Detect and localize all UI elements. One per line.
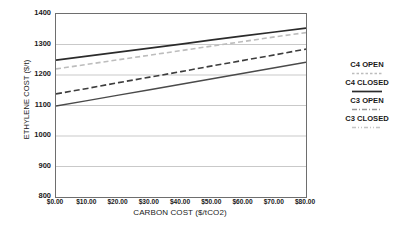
legend-entry[interactable]: C4 OPEN xyxy=(330,60,404,77)
y-axis-tick-label: 1100 xyxy=(25,101,51,109)
y-axis-tick-label: 1000 xyxy=(25,131,51,139)
y-axis-tick-label: 1300 xyxy=(25,40,51,48)
plot-svg xyxy=(56,14,306,197)
y-axis-tick-label: 1400 xyxy=(25,9,51,17)
legend-line-sample xyxy=(330,106,404,113)
legend-label: C3 OPEN xyxy=(330,96,404,106)
chart-legend: C4 OPENC4 CLOSEDC3 OPENC3 CLOSED xyxy=(330,60,404,132)
legend-label: C3 CLOSED xyxy=(330,114,404,124)
series-line-c4-open xyxy=(56,33,306,69)
legend-label: C4 CLOSED xyxy=(330,78,404,88)
chart-figure: ETHYLENE COST ($/t) 14001300120011001000… xyxy=(0,0,407,238)
y-axis-tick-label: 1200 xyxy=(25,70,51,78)
x-axis-title: CARBON COST ($/tCO2) xyxy=(55,208,305,217)
legend-label: C4 OPEN xyxy=(330,60,404,70)
legend-line-sample xyxy=(330,88,404,95)
plot-area xyxy=(55,13,307,198)
legend-line-sample xyxy=(330,124,404,131)
legend-line-sample xyxy=(330,70,404,77)
y-axis-tick-label: 900 xyxy=(25,162,51,170)
legend-entry[interactable]: C3 OPEN xyxy=(330,96,404,113)
legend-entry[interactable]: C4 CLOSED xyxy=(330,78,404,95)
legend-entry[interactable]: C3 CLOSED xyxy=(330,114,404,131)
x-axis-tick-label: $80.00 xyxy=(283,198,327,205)
series-line-c3-closed xyxy=(56,62,306,106)
